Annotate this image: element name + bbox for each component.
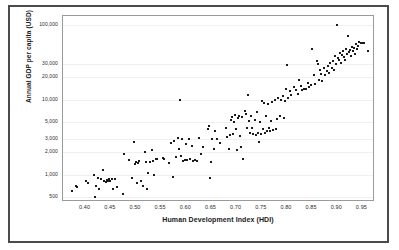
- data-point: [268, 127, 270, 129]
- data-point: [137, 162, 139, 164]
- data-point: [324, 74, 326, 76]
- data-point: [247, 94, 249, 96]
- data-point: [270, 120, 272, 122]
- data-point: [116, 186, 118, 188]
- data-point: [310, 84, 312, 86]
- data-point: [226, 136, 228, 138]
- data-point: [280, 99, 282, 101]
- data-point: [260, 133, 262, 135]
- data-point: [313, 74, 315, 76]
- x-tick-label: 0.90: [331, 204, 342, 211]
- data-point: [97, 177, 99, 179]
- data-point: [232, 133, 234, 135]
- gridline-y-6: [63, 77, 373, 78]
- data-point: [228, 148, 230, 150]
- y-tick-label: 5,000: [45, 118, 58, 124]
- data-point: [238, 115, 240, 117]
- data-point: [263, 102, 265, 104]
- x-tick-label: 0.55: [155, 204, 166, 211]
- data-point: [271, 101, 273, 103]
- data-point: [363, 42, 365, 44]
- chart-figure-frame: Annual GDP per capita (USD) 5001,0002,00…: [8, 5, 389, 243]
- data-point: [231, 116, 233, 118]
- data-point: [134, 163, 136, 165]
- x-tick-label: 0.95: [356, 204, 367, 211]
- data-point: [191, 145, 193, 147]
- data-point: [332, 60, 334, 62]
- gridline-y-8: [63, 25, 373, 26]
- data-point: [259, 121, 261, 123]
- y-tick-label: 2,000: [45, 148, 58, 154]
- data-point: [300, 85, 302, 87]
- data-point: [142, 185, 144, 187]
- data-point: [319, 69, 321, 71]
- data-point: [202, 146, 204, 148]
- gridline-y-4: [63, 122, 373, 123]
- data-point: [109, 180, 111, 182]
- data-point: [234, 114, 236, 116]
- gridline-y-0: [63, 197, 373, 198]
- y-tick-label: 20,000: [42, 73, 58, 79]
- data-point: [207, 128, 209, 130]
- data-point: [146, 188, 148, 190]
- data-point: [308, 86, 310, 88]
- data-point: [172, 176, 174, 178]
- x-tick-label: 0.75: [255, 204, 266, 211]
- data-point: [250, 115, 252, 117]
- data-point: [240, 146, 242, 148]
- data-point: [344, 59, 346, 61]
- x-axis-title: Human Development Index (HDI): [62, 216, 374, 223]
- data-point: [328, 72, 330, 74]
- data-point: [114, 178, 116, 180]
- data-point: [301, 89, 303, 91]
- data-point: [111, 178, 113, 180]
- data-point: [314, 83, 316, 85]
- data-point: [343, 56, 345, 58]
- data-point: [298, 79, 300, 81]
- data-point: [277, 97, 279, 99]
- y-tick-label: 30,000: [42, 60, 58, 66]
- data-point: [235, 128, 237, 130]
- data-point: [256, 111, 258, 113]
- data-point: [334, 55, 336, 57]
- data-point: [283, 117, 285, 119]
- data-point: [98, 188, 100, 190]
- data-point: [216, 138, 218, 140]
- data-point: [346, 53, 348, 55]
- data-point: [257, 132, 259, 134]
- x-tick-label: 0.40: [79, 204, 90, 211]
- data-point: [219, 142, 221, 144]
- data-point: [307, 82, 309, 84]
- data-point: [213, 148, 215, 150]
- data-point: [123, 153, 125, 155]
- data-point: [311, 48, 313, 50]
- data-point: [163, 158, 165, 160]
- data-point: [210, 161, 212, 163]
- data-point: [131, 177, 133, 179]
- plot-area: [62, 15, 374, 201]
- data-point: [357, 45, 359, 47]
- data-point: [177, 137, 179, 139]
- data-point: [237, 117, 239, 119]
- data-point: [214, 130, 216, 132]
- data-point: [145, 161, 147, 163]
- data-point: [282, 95, 284, 97]
- y-axis-tick-labels: 5001,0002,0003,0005,00010,00020,00030,00…: [10, 15, 58, 201]
- data-point: [93, 174, 95, 176]
- data-point: [233, 121, 235, 123]
- data-point: [188, 138, 190, 140]
- data-point: [71, 190, 73, 192]
- data-point: [367, 50, 369, 52]
- y-tick-label: 1,000: [45, 171, 58, 177]
- data-point: [349, 49, 351, 51]
- data-point: [185, 143, 187, 145]
- data-point: [95, 185, 97, 187]
- data-point: [333, 69, 335, 71]
- data-point: [156, 158, 158, 160]
- data-point: [170, 142, 172, 144]
- data-point: [100, 178, 102, 180]
- data-point: [175, 156, 177, 158]
- data-point: [264, 132, 266, 134]
- data-point: [327, 65, 329, 67]
- data-point: [196, 160, 198, 162]
